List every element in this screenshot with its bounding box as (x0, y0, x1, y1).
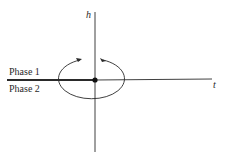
phase-diagram (0, 0, 225, 162)
phase-2-label: Phase 2 (9, 84, 40, 94)
h-axis-label: h (86, 10, 91, 20)
critical-point (92, 77, 97, 82)
t-axis (95, 79, 212, 80)
arrow-right-icon (100, 58, 106, 62)
phase-1-label: Phase 1 (9, 67, 40, 77)
arrow-left-icon (76, 58, 82, 62)
t-axis-label: t (213, 80, 216, 90)
